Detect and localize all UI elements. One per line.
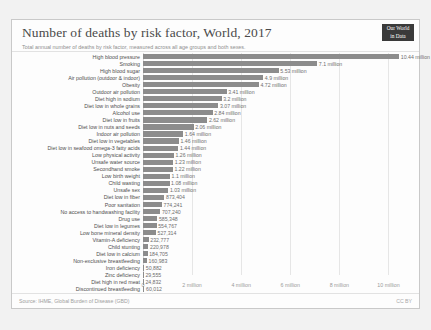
bar-row[interactable]: Alcohol use2.84 million bbox=[12, 109, 421, 116]
bar-container: 1.1 million bbox=[143, 173, 421, 180]
bar[interactable] bbox=[143, 146, 178, 151]
bar-category-label: Indoor air pollution bbox=[12, 131, 143, 137]
bar-container: 873,404 bbox=[143, 194, 421, 201]
x-axis-tick-label: 6 million bbox=[281, 281, 300, 289]
bar-row[interactable]: Obesity4.72 million bbox=[12, 81, 421, 88]
bar[interactable] bbox=[143, 68, 279, 73]
bar-row[interactable]: Drug use585,348 bbox=[12, 215, 421, 222]
bar-value-label: 1.46 million bbox=[179, 138, 207, 144]
bar-value-label: 4.9 million bbox=[263, 75, 288, 81]
bar[interactable] bbox=[143, 82, 259, 87]
bar-row[interactable]: Outdoor air pollution3.41 million bbox=[12, 88, 421, 95]
bar[interactable] bbox=[143, 117, 207, 122]
bar-row[interactable]: High blood sugar5.53 million bbox=[12, 67, 421, 74]
bar-category-label: High blood sugar bbox=[12, 68, 143, 74]
bar-value-label: 1.1 million bbox=[170, 173, 195, 179]
bar[interactable] bbox=[143, 160, 173, 165]
bar-category-label: Child stunting bbox=[12, 244, 143, 250]
bar-value-label: 1.23 million bbox=[173, 159, 201, 165]
bar[interactable] bbox=[143, 103, 218, 108]
bar[interactable] bbox=[143, 181, 170, 186]
bar-container: 1.26 million bbox=[143, 152, 421, 159]
bar-row[interactable]: Low birth weight1.1 million bbox=[12, 173, 421, 180]
bar-value-label: 184,705 bbox=[148, 251, 168, 257]
bar-row[interactable]: Low bone mineral density527,314 bbox=[12, 229, 421, 236]
bar-row[interactable]: Non-exclusive breastfeeding160,983 bbox=[12, 257, 421, 264]
x-axis-tick-label: 2 million bbox=[182, 281, 201, 289]
bar-row[interactable]: Diet low in fruits2.62 million bbox=[12, 116, 421, 123]
bar-row[interactable]: High blood pressure10.44 million bbox=[12, 53, 421, 60]
bar-row[interactable]: Child wasting1.08 million bbox=[12, 180, 421, 187]
bar-value-label: 1.26 million bbox=[174, 152, 202, 158]
bar-row[interactable]: No access to handwashing facility707,240 bbox=[12, 208, 421, 215]
bar-row[interactable]: Diet low in fiber873,404 bbox=[12, 194, 421, 201]
bar[interactable] bbox=[143, 54, 399, 59]
bar[interactable] bbox=[143, 209, 160, 214]
bar-row[interactable]: Diet low in seafood omega-3 fatty acids1… bbox=[12, 145, 421, 152]
bar-value-label: 2.62 million bbox=[207, 117, 235, 123]
bar[interactable] bbox=[143, 167, 173, 172]
bar-row[interactable]: Diet low in whole grains3.07 million bbox=[12, 102, 421, 109]
bar-row[interactable]: Child stunting220,978 bbox=[12, 243, 421, 250]
bar-category-label: Diet low in calcium bbox=[12, 251, 143, 257]
bar-category-label: Non-exclusive breastfeeding bbox=[12, 258, 143, 264]
bar-row[interactable]: Secondhand smoke1.22 million bbox=[12, 166, 421, 173]
chart-header: Number of deaths by risk factor, World, … bbox=[12, 20, 419, 52]
bar-row[interactable]: Diet low in vegetables1.46 million bbox=[12, 138, 421, 145]
bar-category-label: Diet low in fruits bbox=[12, 117, 143, 123]
bar-value-label: 1.44 million bbox=[178, 145, 206, 151]
bar[interactable] bbox=[143, 96, 222, 101]
bar-row[interactable]: Diet low in legumes554,767 bbox=[12, 222, 421, 229]
bar[interactable] bbox=[143, 153, 174, 158]
plot-area: High blood pressure10.44 millionSmoking7… bbox=[12, 53, 421, 281]
bar-container: 5.53 million bbox=[143, 67, 421, 74]
bar-value-label: 2.84 million bbox=[213, 110, 241, 116]
bar[interactable] bbox=[143, 216, 157, 221]
bar-row[interactable]: Zinc deficiency29,555 bbox=[12, 271, 421, 278]
bar[interactable] bbox=[143, 138, 179, 143]
bar-category-label: Diet low in legumes bbox=[12, 223, 143, 229]
bar-container: 3.07 million bbox=[143, 102, 421, 109]
bar-row[interactable]: Smoking7.1 million bbox=[12, 60, 421, 67]
bar[interactable] bbox=[143, 195, 164, 200]
bar-row[interactable]: Diet low in calcium184,705 bbox=[12, 250, 421, 257]
bar[interactable] bbox=[143, 223, 157, 228]
bar[interactable] bbox=[143, 230, 156, 235]
bar-row[interactable]: Diet low in nuts and seeds2.06 million bbox=[12, 123, 421, 130]
bar-container: 160,983 bbox=[143, 257, 421, 264]
bar-row[interactable]: Vitamin-A deficiency232,777 bbox=[12, 236, 421, 243]
bar-row[interactable]: Low physical activity1.26 million bbox=[12, 152, 421, 159]
bar-row[interactable]: Unsafe sex1.03 million bbox=[12, 187, 421, 194]
bar-row[interactable]: Unsafe water source1.23 million bbox=[12, 159, 421, 166]
bar-value-label: 527,314 bbox=[156, 230, 176, 236]
screenshot-root: Number of deaths by risk factor, World, … bbox=[0, 0, 431, 330]
bar[interactable] bbox=[143, 75, 263, 80]
bar-value-label: 10.44 million bbox=[399, 54, 430, 60]
bar-container: 7.1 million bbox=[143, 60, 421, 67]
bar[interactable] bbox=[143, 188, 168, 193]
bar-category-label: Low birth weight bbox=[12, 173, 143, 179]
owid-logo[interactable]: Our World in Data bbox=[382, 24, 414, 41]
bar-row[interactable]: Iron deficiency50,882 bbox=[12, 264, 421, 271]
bar[interactable] bbox=[143, 61, 317, 66]
bar[interactable] bbox=[143, 202, 162, 207]
bar-row[interactable]: Poor sanitation774,241 bbox=[12, 201, 421, 208]
bar-container: 4.9 million bbox=[143, 74, 421, 81]
bar[interactable] bbox=[143, 110, 213, 115]
bar[interactable] bbox=[143, 174, 170, 179]
bar-container: 1.64 million bbox=[143, 131, 421, 138]
bar-category-label: Drug use bbox=[12, 216, 143, 222]
license-note[interactable]: CC BY bbox=[396, 298, 412, 304]
bar-category-label: Zinc deficiency bbox=[12, 272, 143, 278]
bar[interactable] bbox=[143, 131, 183, 136]
bar-value-label: 4.72 million bbox=[259, 82, 287, 88]
bar-row[interactable]: Diet high in sodium3.2 million bbox=[12, 95, 421, 102]
bar-row[interactable]: Indoor air pollution1.64 million bbox=[12, 131, 421, 138]
bar-value-label: 707,240 bbox=[160, 209, 180, 215]
bar[interactable] bbox=[143, 124, 194, 129]
bar-category-label: No access to handwashing facility bbox=[12, 209, 143, 215]
bar[interactable] bbox=[143, 89, 227, 94]
bar-row[interactable]: Air pollution (outdoor & indoor)4.9 mill… bbox=[12, 74, 421, 81]
bar-container: 29,555 bbox=[143, 271, 421, 278]
bar-value-label: 1.03 million bbox=[168, 187, 196, 193]
